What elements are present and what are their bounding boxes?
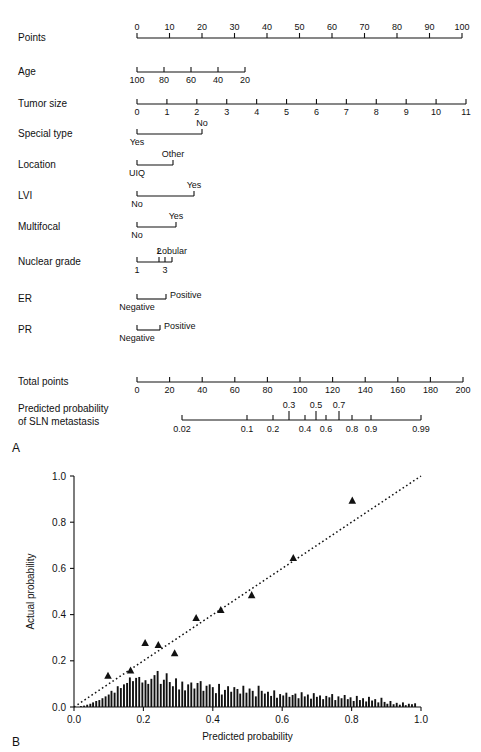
histogram-bar [138, 677, 140, 707]
histogram-bar [374, 699, 376, 707]
histogram-bar [157, 671, 159, 707]
axis-tick-label: 100 [454, 22, 469, 32]
category-label: Positive [164, 321, 196, 331]
predicted-probability-axis: Predicted probabilityof SLN metastasis0.… [18, 400, 430, 434]
category-label: Other [162, 149, 185, 159]
histogram-bar [344, 695, 346, 707]
histogram-bar [310, 699, 312, 707]
histogram-bar [328, 697, 330, 707]
category-label: Yes [130, 137, 145, 147]
histogram-bar [224, 690, 226, 707]
axis-tick-label: 10 [164, 22, 174, 32]
category-label: Negative [119, 302, 155, 312]
data-point-triangle [155, 641, 163, 648]
y-axis-tick-label: 0.4 [52, 609, 66, 620]
histogram-bar [249, 689, 251, 707]
axis-tick-label: 0 [134, 22, 139, 32]
category-label: Yes [187, 180, 202, 190]
category-label: No [131, 199, 143, 209]
histogram-bar [193, 689, 195, 707]
y-axis-tick-label: 0.0 [52, 702, 66, 713]
y-axis-title: Actual probability [25, 553, 36, 629]
histogram-bar [359, 700, 361, 707]
x-axis-tick-label: 1.0 [414, 714, 428, 725]
x-axis-tick-label: 0.4 [206, 714, 220, 725]
axis-tick-label: 100 [129, 75, 144, 85]
histogram-bar [209, 684, 211, 707]
histogram-bar [313, 693, 315, 707]
histogram-bar [270, 696, 272, 707]
observed-points-series [104, 497, 356, 679]
histogram-bar [347, 699, 349, 707]
axis-tick-label: 60 [230, 385, 240, 395]
axis-tick-label: 8 [374, 107, 379, 117]
histogram-bar [190, 683, 192, 707]
histogram-bar [111, 691, 113, 707]
histogram-bar [233, 687, 235, 707]
histogram-bar [197, 683, 199, 707]
y-axis-tick-label: 0.6 [52, 563, 66, 574]
histogram-bar [273, 690, 275, 707]
nomogram-row-total-points: Total points020406080100120140160180200 [18, 376, 471, 395]
axis-tick-label: 6 [314, 107, 319, 117]
histogram-bar [184, 690, 186, 707]
histogram-bar [187, 684, 189, 707]
histogram-bar [141, 683, 143, 707]
histogram-bar [246, 693, 248, 707]
nomogram-row-label: Multifocal [18, 221, 60, 232]
histogram-bar [405, 705, 407, 707]
axis-tick-label: 0.02 [173, 424, 191, 434]
histogram-bar [252, 691, 254, 707]
axis-tick-label: 60 [186, 75, 196, 85]
category-label: No [131, 230, 143, 240]
nomogram-row-label: Points [18, 32, 46, 43]
data-point-triangle [217, 606, 225, 613]
axis-tick-label: 90 [424, 22, 434, 32]
axis-tick-label: 0 [134, 385, 139, 395]
histogram-bar [408, 704, 410, 707]
histogram-bar [114, 693, 116, 707]
histogram-bar [399, 705, 401, 707]
nomogram-row-multifocal: MultifocalNoYes [18, 211, 184, 240]
nomogram-row-label: Location [18, 159, 56, 170]
axis-tick-label: 0.1 [241, 424, 254, 434]
category-label: Negative [119, 333, 155, 343]
x-axis-tick-label: 0.2 [136, 714, 150, 725]
nomogram-row-nuclear-grade: Nuclear grade123Lobular [18, 246, 187, 275]
histogram-bar [384, 702, 386, 707]
histogram-bar [356, 696, 358, 707]
category-label: No [196, 118, 208, 128]
histogram-bar [98, 700, 100, 707]
histogram-bar [282, 695, 284, 707]
histogram-bar [264, 694, 266, 707]
axis-tick-label: 3 [224, 107, 229, 117]
histogram-bar [322, 699, 324, 707]
histogram-bar [242, 686, 244, 707]
y-axis-tick-label: 0.8 [52, 517, 66, 528]
histogram-bar [402, 702, 404, 707]
histogram-bar [353, 701, 355, 707]
x-axis-tick-label: 0.8 [345, 714, 359, 725]
histogram-bar [239, 694, 241, 707]
histogram-bar [331, 694, 333, 707]
y-axis-tick-label: 0.2 [52, 655, 66, 666]
panel-a-nomogram: Points0102030405060708090100Age100806040… [12, 22, 471, 455]
data-point-triangle [192, 614, 200, 621]
histogram-bar [365, 701, 367, 707]
histogram-bar [294, 694, 296, 707]
data-point-triangle [171, 649, 179, 656]
axis-tick-label: 0.2 [267, 424, 280, 434]
axis-tick-label: 0.8 [346, 424, 359, 434]
category-label: 1 [134, 265, 139, 275]
histogram-bar [169, 682, 171, 707]
histogram-bar [135, 678, 137, 707]
histogram-bar [108, 695, 110, 707]
nomogram-row-label: Tumor size [18, 98, 68, 109]
axis-tick-label: 4 [254, 107, 259, 117]
axis-tick-label: 0.4 [299, 424, 312, 434]
category-label: Yes [169, 211, 184, 221]
histogram-bar [123, 684, 125, 707]
y-axis-tick-label: 1.0 [52, 471, 66, 482]
histogram-bar [230, 692, 232, 707]
histogram-bar [166, 673, 168, 707]
